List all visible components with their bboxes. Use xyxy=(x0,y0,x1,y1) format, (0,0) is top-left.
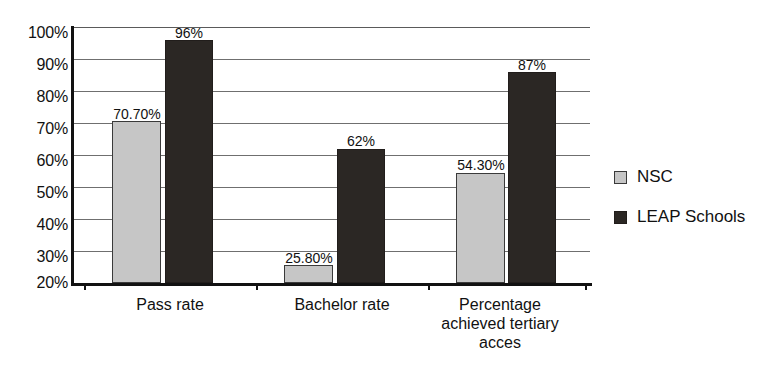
y-axis-tick-labels: 100% 90% 80% 70% 60% 50% 40% 30% 20% xyxy=(0,0,68,368)
y-axis-line xyxy=(71,26,74,285)
legend-item-nsc: NSC xyxy=(614,168,745,186)
y-tick-label: 90% xyxy=(2,57,68,73)
x-axis-tick xyxy=(256,283,258,290)
data-label-nsc-pass-rate: 70.70% xyxy=(91,107,183,121)
x-axis-tick xyxy=(585,283,587,290)
x-axis-tick xyxy=(84,283,86,290)
y-tick-label: 50% xyxy=(2,185,68,201)
y-tick-label: 30% xyxy=(2,249,68,265)
legend-swatch-icon xyxy=(614,171,627,184)
bar-nsc-bachelor-rate xyxy=(284,265,333,283)
data-label-leap-bachelor-rate: 62% xyxy=(321,134,401,148)
y-tick-label: 80% xyxy=(2,89,68,105)
y-tick-label: 100% xyxy=(2,25,68,41)
data-label-leap-pass-rate: 96% xyxy=(149,26,229,40)
x-axis-tick xyxy=(428,283,430,290)
y-tick-label: 20% xyxy=(2,275,68,291)
x-category-label-bachelor-rate: Bachelor rate xyxy=(262,295,422,314)
bar-leap-tertiary-access xyxy=(508,72,556,283)
y-tick-label: 60% xyxy=(2,153,68,169)
plot-area: 70.70% 96% 25.80% 62% 54.30% 87% xyxy=(73,27,590,283)
x-axis-line xyxy=(71,283,592,286)
data-label-nsc-tertiary-access: 54.30% xyxy=(435,158,527,172)
bar-leap-pass-rate xyxy=(165,40,213,283)
data-label-leap-tertiary-access: 87% xyxy=(492,58,572,72)
legend-label: LEAP Schools xyxy=(637,208,745,226)
y-tick-label: 70% xyxy=(2,121,68,137)
data-label-nsc-bachelor-rate: 25.80% xyxy=(263,251,355,265)
bar-chart: 100% 90% 80% 70% 60% 50% 40% 30% 20% 70.… xyxy=(0,0,775,368)
y-tick-label: 40% xyxy=(2,217,68,233)
bar-nsc-pass-rate xyxy=(112,121,161,283)
chart-legend: NSC LEAP Schools xyxy=(614,168,745,248)
x-category-label-pass-rate: Pass rate xyxy=(90,295,250,314)
legend-swatch-icon xyxy=(614,211,627,224)
legend-item-leap-schools: LEAP Schools xyxy=(614,208,745,226)
x-category-label-tertiary-access: Percentage achieved tertiary acces xyxy=(405,295,595,352)
bar-nsc-tertiary-access xyxy=(456,173,505,283)
legend-label: NSC xyxy=(637,168,673,186)
